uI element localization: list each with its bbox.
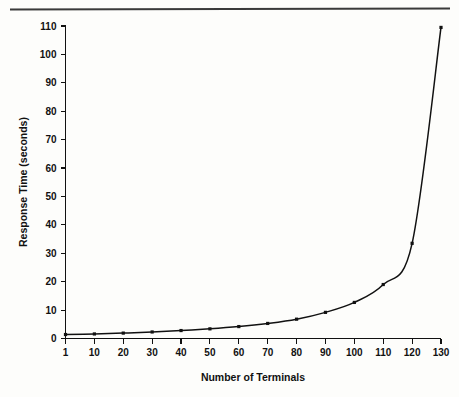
- data-point-marker: [266, 322, 269, 325]
- x-tick-label: 70: [262, 347, 274, 358]
- data-point-marker: [151, 330, 154, 333]
- x-tick-label: 90: [320, 347, 332, 358]
- data-point-marker: [208, 327, 211, 330]
- y-tick-label: 30: [45, 248, 57, 259]
- x-tick-label: 10: [89, 347, 101, 358]
- x-tick-label: 50: [204, 347, 216, 358]
- y-tick-label: 10: [45, 305, 57, 316]
- x-tick-label: 80: [291, 347, 303, 358]
- x-tick-label: 20: [118, 347, 130, 358]
- y-axis-title: Response Time (seconds): [17, 117, 29, 247]
- x-tick-label: 130: [433, 347, 450, 358]
- y-tick-group: 0102030405060708090100110: [40, 21, 66, 345]
- x-tick-label: 100: [346, 347, 363, 358]
- x-tick-label: 30: [147, 347, 159, 358]
- data-point-marker: [295, 318, 298, 321]
- data-point-marker: [411, 242, 414, 245]
- data-point-marker: [382, 283, 385, 286]
- data-point-marker: [64, 333, 67, 336]
- data-point-marker: [122, 332, 125, 335]
- y-tick-label: 80: [45, 106, 57, 117]
- x-tick-label: 110: [375, 347, 392, 358]
- x-tick-label: 120: [404, 347, 421, 358]
- y-tick-label: 60: [45, 163, 57, 174]
- data-point-marker: [179, 329, 182, 332]
- y-tick-label: 70: [45, 134, 57, 145]
- series-marker-group: [64, 26, 443, 336]
- x-axis-title: Number of Terminals: [201, 371, 305, 383]
- x-tick-label: 40: [175, 347, 187, 358]
- data-point-marker: [324, 311, 327, 314]
- chart-plot-area: 0102030405060708090100110 11020304050607…: [0, 0, 459, 397]
- line-chart: 0102030405060708090100110 11020304050607…: [0, 0, 459, 397]
- y-tick-label: 20: [45, 276, 57, 287]
- y-tick-label: 90: [45, 77, 57, 88]
- figure-container: 0102030405060708090100110 11020304050607…: [0, 0, 459, 397]
- x-tick-label: 1: [63, 347, 69, 358]
- data-point-marker: [237, 325, 240, 328]
- y-tick-label: 0: [51, 333, 57, 344]
- x-tick-group: 1102030405060708090100110120130: [63, 339, 450, 358]
- y-tick-label: 40: [45, 219, 57, 230]
- data-point-marker: [439, 26, 442, 29]
- y-tick-label: 110: [40, 21, 57, 32]
- data-point-marker: [93, 332, 96, 335]
- x-tick-label: 60: [233, 347, 245, 358]
- y-tick-label: 50: [45, 191, 57, 202]
- y-tick-label: 100: [40, 49, 57, 60]
- series-line-response-time: [66, 27, 442, 334]
- data-point-marker: [353, 301, 356, 304]
